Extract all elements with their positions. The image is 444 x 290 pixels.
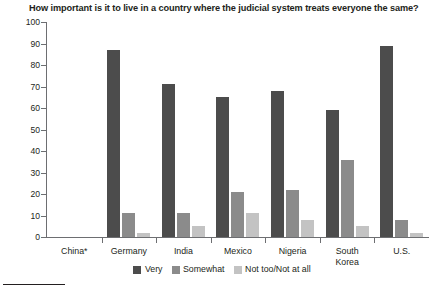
bar-group: [156, 22, 211, 237]
x-axis-group-tick: [320, 238, 321, 243]
bar-group: [102, 22, 157, 237]
footnote-rule: [3, 284, 65, 285]
legend-swatch-icon: [133, 266, 141, 274]
bar[interactable]: [216, 97, 229, 237]
bar-group-bars: [211, 22, 266, 237]
category-label-line: Korea: [320, 257, 375, 268]
bar[interactable]: [137, 233, 150, 237]
bar-group: [47, 22, 102, 237]
bar-group: [211, 22, 266, 237]
bar[interactable]: [177, 213, 190, 237]
bar[interactable]: [326, 110, 339, 237]
x-axis-group-tick: [156, 238, 157, 243]
category-label-line: China*: [47, 246, 102, 257]
bar[interactable]: [162, 84, 175, 237]
legend-item[interactable]: Somewhat: [172, 265, 225, 274]
bar[interactable]: [301, 220, 314, 237]
bar-group-bars: [320, 22, 375, 237]
category-label-line: Mexico: [211, 246, 266, 257]
legend-swatch-icon: [172, 266, 180, 274]
y-axis-label: 0: [4, 233, 40, 241]
y-axis-label: 20: [4, 190, 40, 198]
bar[interactable]: [356, 226, 369, 237]
bar[interactable]: [271, 91, 284, 237]
chart-title: How important is it to live in a country…: [29, 3, 439, 14]
x-axis-category-label: Mexico: [211, 246, 266, 257]
chart-legend: VerySomewhatNot too/Not at all: [0, 265, 444, 274]
category-label-line: Nigeria: [265, 246, 320, 257]
y-axis-label: 30: [4, 169, 40, 177]
x-axis-category-label: Germany: [102, 246, 157, 257]
x-axis-category-label: Nigeria: [265, 246, 320, 257]
x-axis-group-tick: [374, 238, 375, 243]
bar[interactable]: [192, 226, 205, 237]
bar[interactable]: [286, 190, 299, 237]
y-axis-label: 50: [4, 126, 40, 134]
bar[interactable]: [231, 192, 244, 237]
bar[interactable]: [380, 46, 393, 237]
x-axis-category-label: India: [156, 246, 211, 257]
category-label-line: U.S.: [374, 246, 429, 257]
category-label-line: South: [320, 246, 375, 257]
bar-group-bars: [265, 22, 320, 237]
legend-item[interactable]: Not too/Not at all: [234, 265, 311, 274]
x-axis-category-label: U.S.: [374, 246, 429, 257]
x-axis-category-label: SouthKorea: [320, 246, 375, 267]
y-axis-label: 80: [4, 61, 40, 69]
bar[interactable]: [246, 213, 259, 237]
bar-group: [374, 22, 429, 237]
bar[interactable]: [122, 213, 135, 237]
legend-label: Very: [145, 265, 163, 274]
x-axis-group-tick: [265, 238, 266, 243]
y-axis-label: 100: [4, 18, 40, 26]
category-label-line: Germany: [102, 246, 157, 257]
bar-chart-figure: How important is it to live in a country…: [0, 0, 444, 290]
y-axis-tick: [41, 237, 47, 238]
y-axis: 1009080706050403020100: [0, 0, 40, 290]
x-axis-group-tick: [102, 238, 103, 243]
legend-item[interactable]: Very: [133, 265, 162, 274]
x-axis-category-label: China*: [47, 246, 102, 257]
bar-group-bars: [47, 22, 102, 237]
y-axis-label: 70: [4, 83, 40, 91]
bar-group-bars: [156, 22, 211, 237]
x-axis-group-tick: [211, 238, 212, 243]
x-axis-line: [46, 237, 429, 238]
bar-group-bars: [102, 22, 157, 237]
bar-group: [265, 22, 320, 237]
y-axis-label: 90: [4, 40, 40, 48]
y-axis-label: 10: [4, 212, 40, 220]
legend-swatch-icon: [234, 266, 242, 274]
bar[interactable]: [395, 220, 408, 237]
bar[interactable]: [410, 233, 423, 237]
y-axis-label: 60: [4, 104, 40, 112]
bar[interactable]: [107, 50, 120, 237]
legend-label: Somewhat: [183, 265, 225, 274]
bar-group: [320, 22, 375, 237]
bar-group-bars: [374, 22, 429, 237]
legend-label: Not too/Not at all: [245, 265, 311, 274]
y-axis-label: 40: [4, 147, 40, 155]
bar[interactable]: [341, 160, 354, 237]
category-label-line: India: [156, 246, 211, 257]
